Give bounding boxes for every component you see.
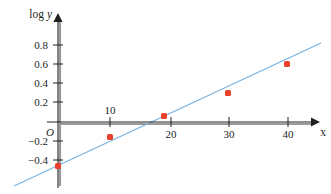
data-point: [284, 61, 290, 67]
log-linear-scatter-chart: 0.8 0.6 0.4 0.2 −0.2 −0.4 10 20 30 40 O …: [0, 0, 331, 194]
x-tick-label-40: 40: [283, 128, 295, 140]
y-tick-label-0.6: 0.6: [34, 58, 48, 70]
origin-label: O: [46, 126, 54, 138]
y-tick-label-0.2: 0.2: [34, 96, 48, 108]
data-point: [55, 163, 61, 169]
y-tick-label-0.4: 0.4: [34, 77, 48, 89]
axis-shadow-group: [60, 20, 313, 186]
data-point: [107, 134, 113, 140]
y-axis-title: logy: [29, 8, 53, 21]
x-axis-title: x: [320, 126, 326, 138]
y-axis-title-prefix: log: [29, 8, 44, 21]
y-tick-label-neg0.2: −0.2: [28, 135, 48, 147]
y-axis: [53, 13, 63, 188]
x-tick-label-30: 30: [224, 128, 236, 140]
x-tick-label-20: 20: [166, 128, 178, 140]
x-axis: [47, 117, 320, 127]
data-point: [225, 90, 231, 96]
y-axis-arrowhead: [53, 13, 62, 22]
data-point: [161, 113, 167, 119]
data-point-group: [55, 61, 290, 169]
x-tick-label-10: 10: [105, 104, 117, 116]
chart-canvas: 0.8 0.6 0.4 0.2 −0.2 −0.4 10 20 30 40 O …: [0, 0, 331, 194]
y-tick-label-0.8: 0.8: [34, 39, 48, 51]
y-tick-label-neg0.4: −0.4: [28, 154, 48, 166]
x-axis-arrowhead: [311, 117, 320, 126]
y-axis-title-variable: y: [46, 8, 53, 21]
